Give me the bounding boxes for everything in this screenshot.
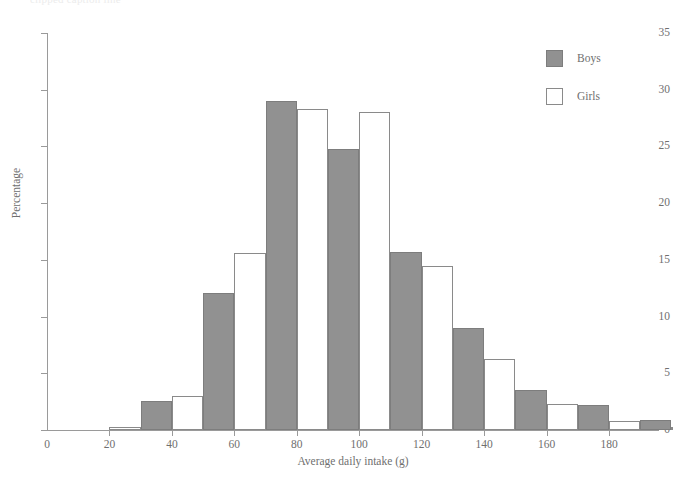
bar-boys <box>203 293 234 430</box>
x-axis-tick <box>422 431 423 436</box>
bar-girls <box>422 266 453 430</box>
bar-girls <box>109 427 140 430</box>
bar-boys <box>141 401 172 430</box>
bar-girls <box>609 421 640 430</box>
legend-swatch-boys-icon <box>546 50 563 67</box>
x-axis-tick-label: 20 <box>89 438 129 450</box>
x-axis-tick <box>547 431 548 436</box>
x-axis-tick <box>484 431 485 436</box>
x-axis-tick-label: 60 <box>214 438 254 450</box>
y-axis-title: Percentage <box>10 148 22 238</box>
x-axis-tick <box>609 431 610 436</box>
x-axis-tick-label: 180 <box>589 438 629 450</box>
bar-boys <box>266 101 297 430</box>
x-axis-tick <box>109 431 110 436</box>
legend: Boys Girls <box>546 50 666 126</box>
clipped-caption-text: clipped caption line <box>30 0 121 5</box>
x-axis-tick-label: 120 <box>402 438 442 450</box>
bar-girls <box>484 359 515 430</box>
bar-boys <box>578 405 609 430</box>
y-axis-tick <box>41 430 47 431</box>
x-axis-tick <box>234 431 235 436</box>
legend-label-boys: Boys <box>577 51 601 66</box>
bar-girls <box>234 253 265 430</box>
x-axis-tick-label: 80 <box>277 438 317 450</box>
bar-girls <box>359 112 390 430</box>
x-axis-tick-label: 40 <box>152 438 192 450</box>
bar-boys <box>453 328 484 430</box>
x-axis-tick <box>297 431 298 436</box>
clipped-caption: clipped caption line <box>0 0 670 9</box>
legend-item-girls[interactable]: Girls <box>546 88 666 126</box>
bar-boys <box>390 252 421 430</box>
x-axis-tick-label: 140 <box>464 438 504 450</box>
bar-boys <box>640 420 671 430</box>
legend-swatch-girls-icon <box>546 88 563 105</box>
x-axis-tick-label: 100 <box>339 438 379 450</box>
x-axis-title: Average daily intake (g) <box>47 455 659 467</box>
bar-girls <box>172 396 203 430</box>
bar-girls <box>297 109 328 430</box>
bar-boys <box>515 390 546 430</box>
x-axis-tick <box>359 431 360 436</box>
bar-boys <box>328 149 359 430</box>
legend-label-girls: Girls <box>577 89 600 104</box>
bar-girls <box>547 404 578 430</box>
x-axis-line <box>47 430 659 431</box>
x-axis-tick-label: 160 <box>527 438 567 450</box>
x-axis-tick-label: 0 <box>27 438 67 450</box>
legend-item-boys[interactable]: Boys <box>546 50 666 88</box>
x-axis-tick <box>172 431 173 436</box>
